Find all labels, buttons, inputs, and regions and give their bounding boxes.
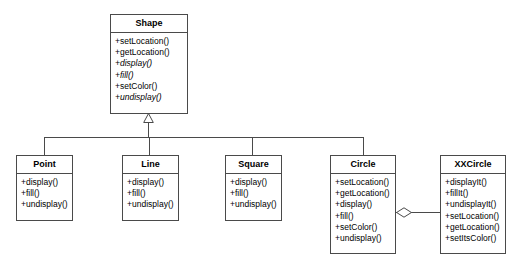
class-box-circle[interactable]: Circle +setLocation() +getLocation() +di… bbox=[330, 155, 396, 254]
class-member: +fill() bbox=[111, 70, 187, 81]
class-member: +display() bbox=[123, 177, 178, 188]
class-box-square[interactable]: Square +display() +fill() +undisplay() bbox=[225, 155, 282, 221]
class-member: +setItsColor() bbox=[441, 233, 505, 244]
class-name-circle: Circle bbox=[331, 156, 395, 174]
class-name-line: Line bbox=[123, 156, 178, 174]
class-name-xxcircle: XXCircle bbox=[441, 156, 505, 174]
generalization-drop-point bbox=[44, 137, 45, 155]
uml-class-diagram: Shape +setLocation() +getLocation() +dis… bbox=[0, 0, 523, 264]
class-member: +display() bbox=[17, 177, 72, 188]
class-member: +setColor() bbox=[111, 81, 187, 92]
class-box-line[interactable]: Line +display() +fill() +undisplay() bbox=[122, 155, 179, 221]
class-name-shape: Shape bbox=[111, 15, 187, 33]
class-member: +getLocation() bbox=[441, 222, 505, 233]
generalization-drop-circle bbox=[363, 137, 364, 155]
class-member: +display() bbox=[331, 199, 395, 210]
class-name-square: Square bbox=[226, 156, 281, 174]
class-member: +getLocation() bbox=[111, 47, 187, 58]
class-member: +undisplayIt() bbox=[441, 199, 505, 210]
generalization-trunk bbox=[148, 122, 149, 137]
class-box-shape[interactable]: Shape +setLocation() +getLocation() +dis… bbox=[110, 14, 188, 114]
class-member: +display() bbox=[226, 177, 281, 188]
class-member: +setLocation() bbox=[331, 177, 395, 188]
aggregation-diamond-icon bbox=[396, 207, 412, 218]
class-box-point[interactable]: Point +display() +fill() +undisplay() bbox=[16, 155, 73, 221]
class-member: +fill() bbox=[226, 188, 281, 199]
class-member: +fill() bbox=[123, 188, 178, 199]
class-member: +undisplay() bbox=[111, 92, 187, 103]
class-member: +setLocation() bbox=[441, 211, 505, 222]
class-member: +setColor() bbox=[331, 222, 395, 233]
class-member: +display() bbox=[111, 58, 187, 69]
class-member: +undisplay() bbox=[123, 199, 178, 210]
class-members-circle: +setLocation() +getLocation() +display()… bbox=[331, 174, 395, 248]
class-members-xxcircle: +displayIt() +fillIt() +undisplayIt() +s… bbox=[441, 174, 505, 248]
generalization-triangle-icon bbox=[143, 113, 154, 123]
class-member: +fill() bbox=[17, 188, 72, 199]
class-members-line: +display() +fill() +undisplay() bbox=[123, 174, 178, 215]
class-member: +undisplay() bbox=[226, 199, 281, 210]
class-box-xxcircle[interactable]: XXCircle +displayIt() +fillIt() +undispl… bbox=[440, 155, 506, 254]
generalization-drop-line bbox=[149, 137, 150, 155]
class-member: +fill() bbox=[331, 211, 395, 222]
class-member: +getLocation() bbox=[331, 188, 395, 199]
class-members-shape: +setLocation() +getLocation() +display()… bbox=[111, 33, 187, 107]
class-members-point: +display() +fill() +undisplay() bbox=[17, 174, 72, 215]
class-name-point: Point bbox=[17, 156, 72, 174]
class-member: +setLocation() bbox=[111, 36, 187, 47]
class-member: +displayIt() bbox=[441, 177, 505, 188]
class-members-square: +display() +fill() +undisplay() bbox=[226, 174, 281, 215]
class-member: +undisplay() bbox=[17, 199, 72, 210]
class-member: +fillIt() bbox=[441, 188, 505, 199]
generalization-drop-square bbox=[252, 137, 253, 155]
generalization-bus bbox=[44, 137, 363, 138]
class-member: +undisplay() bbox=[331, 233, 395, 244]
